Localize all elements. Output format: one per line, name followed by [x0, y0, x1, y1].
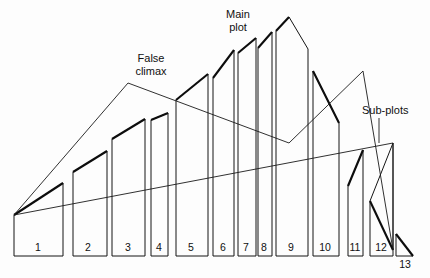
- annotation-false-climax: False climax: [120, 52, 182, 77]
- act-column-5: [176, 74, 208, 256]
- act-label-2: 2: [85, 241, 91, 253]
- act-label-8: 8: [261, 241, 267, 253]
- annotation-main-plot: Main plot: [208, 8, 268, 33]
- act-columns: [14, 17, 413, 256]
- act-label-4: 4: [156, 241, 162, 253]
- act-column-12: [370, 143, 393, 256]
- act-slope-4: [151, 113, 168, 120]
- sub-plots-line: [14, 143, 393, 250]
- diagram-canvas: 1 2 3 4 5 6 7 8 9 10 11 12 13: [0, 0, 430, 278]
- main-plot-line: [14, 71, 393, 250]
- act-label-11: 11: [350, 241, 361, 253]
- act-column-8: [258, 32, 272, 256]
- act-label-6: 6: [220, 241, 226, 253]
- act-column-4: [151, 113, 168, 256]
- act-column-9: [276, 17, 308, 256]
- act-slope-7: [238, 38, 256, 53]
- act-slope-3: [112, 119, 145, 139]
- act-slope-11: [348, 150, 363, 186]
- act-column-3: [112, 119, 145, 256]
- dramatic-structure-diagram: 1 2 3 4 5 6 7 8 9 10 11 12 13 False clim…: [0, 0, 430, 278]
- act-slope-9: [276, 17, 289, 31]
- act-column-6: [213, 50, 234, 256]
- act-slope-10: [313, 71, 339, 123]
- act-label-13: 13: [399, 258, 411, 270]
- act-slope-8: [258, 32, 272, 48]
- act-label-7: 7: [243, 241, 249, 253]
- act-label-10: 10: [319, 241, 331, 253]
- annotation-sub-plots: Sub-plots: [362, 104, 428, 117]
- act-slope-2: [73, 151, 107, 172]
- act-label-1: 1: [35, 241, 41, 253]
- act-label-5: 5: [188, 241, 194, 253]
- act-label-12: 12: [375, 241, 387, 253]
- act-slope-5: [176, 74, 208, 100]
- act-label-9: 9: [288, 241, 294, 253]
- act-column-7: [238, 38, 256, 256]
- act-slope-13: [396, 234, 413, 256]
- act-slope-6: [213, 50, 234, 78]
- act-label-3: 3: [125, 241, 131, 253]
